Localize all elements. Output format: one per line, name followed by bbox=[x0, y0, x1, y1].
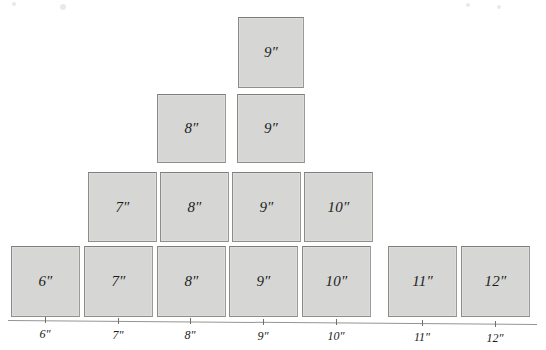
square-block: 7″ bbox=[84, 246, 153, 317]
axis-tick bbox=[118, 318, 119, 324]
square-block: 7″ bbox=[88, 172, 157, 242]
square-block: 9″ bbox=[238, 17, 304, 88]
axis-tick-label: 6″ bbox=[40, 328, 51, 340]
scan-speck bbox=[497, 5, 501, 9]
square-block-label: 7″ bbox=[111, 274, 125, 289]
axis-tick-label: 9″ bbox=[258, 330, 269, 342]
pyramid-squares-figure: 9″8″9″7″8″9″10″6″7″8″9″10″11″12″ 6″7″8″9… bbox=[0, 0, 546, 350]
square-block-label: 9″ bbox=[256, 274, 270, 289]
square-block-label: 9″ bbox=[264, 121, 278, 136]
square-block-label: 9″ bbox=[264, 45, 278, 60]
square-block-label: 7″ bbox=[115, 199, 129, 214]
square-block: 6″ bbox=[11, 246, 80, 317]
square-block-label: 8″ bbox=[187, 199, 201, 214]
square-block-label: 10″ bbox=[326, 274, 348, 289]
square-block: 8″ bbox=[157, 246, 226, 317]
axis-tick-label: 10″ bbox=[328, 330, 345, 342]
axis-tick-label: 11″ bbox=[414, 331, 430, 343]
square-block: 10″ bbox=[302, 246, 371, 317]
axis-tick bbox=[495, 321, 496, 327]
square-block-label: 11″ bbox=[412, 274, 433, 289]
square-block-label: 6″ bbox=[38, 274, 52, 289]
axis-tick bbox=[422, 320, 423, 326]
square-block: 12″ bbox=[461, 246, 530, 317]
square-block: 9″ bbox=[232, 172, 301, 242]
square-block-label: 8″ bbox=[184, 121, 198, 136]
square-block-label: 10″ bbox=[328, 199, 350, 214]
square-block: 8″ bbox=[160, 172, 229, 242]
axis-tick-label: 7″ bbox=[113, 329, 124, 341]
axis-tick bbox=[190, 318, 191, 324]
axis-tick-label: 12″ bbox=[487, 332, 504, 344]
square-block: 8″ bbox=[157, 94, 226, 163]
axis-tick bbox=[336, 319, 337, 325]
square-block-label: 12″ bbox=[485, 274, 507, 289]
axis-tick-label: 8″ bbox=[185, 329, 196, 341]
square-block: 9″ bbox=[237, 94, 305, 163]
square-block: 11″ bbox=[388, 246, 457, 317]
scan-speck bbox=[60, 4, 66, 10]
axis-tick bbox=[263, 319, 264, 325]
axis-line bbox=[8, 320, 537, 325]
square-block-label: 8″ bbox=[184, 274, 198, 289]
square-block: 9″ bbox=[229, 246, 298, 317]
scan-speck bbox=[12, 2, 16, 6]
square-block: 10″ bbox=[304, 172, 373, 242]
axis-tick bbox=[45, 317, 46, 323]
square-block-label: 9″ bbox=[259, 199, 273, 214]
scan-speck bbox=[466, 3, 470, 7]
